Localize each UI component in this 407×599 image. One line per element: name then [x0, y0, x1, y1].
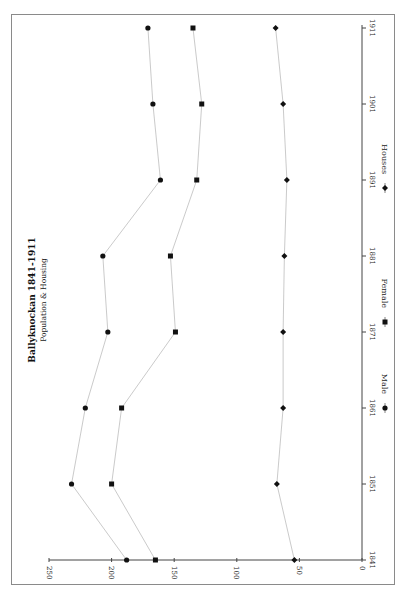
data-point-female — [153, 558, 158, 563]
value-tick-label: 200 — [107, 566, 115, 579]
chart-title: Ballyknockan 1841-1911 — [27, 237, 37, 362]
data-point-male — [105, 329, 110, 334]
value-tick-label: 150 — [170, 566, 178, 579]
series-markers — [69, 25, 297, 563]
data-point-female — [109, 482, 114, 487]
category-tick-label: 1901 — [368, 95, 376, 113]
data-point-houses — [280, 405, 286, 411]
value-tick-label: 250 — [45, 566, 53, 579]
legend-marker-houses-icon — [382, 185, 388, 191]
legend-label-male: Male — [380, 374, 389, 395]
data-point-houses — [280, 101, 286, 107]
data-point-female — [190, 26, 195, 31]
data-point-female — [199, 102, 204, 107]
data-point-houses — [291, 557, 297, 563]
category-tick-label: 1891 — [368, 171, 376, 189]
data-point-houses — [280, 329, 286, 335]
legend-marker-male-icon — [382, 405, 387, 410]
category-tick-label: 1851 — [368, 475, 376, 493]
series-line-male — [72, 28, 161, 560]
category-tick-label: 1911 — [368, 19, 376, 37]
data-point-houses — [273, 25, 279, 31]
value-tick-label: 100 — [232, 566, 240, 579]
series-lines — [72, 28, 295, 560]
series-line-houses — [276, 28, 295, 560]
data-point-houses — [284, 177, 290, 183]
category-tick-label: 1871 — [368, 323, 376, 341]
data-point-female — [119, 406, 124, 411]
category-tick-label: 1861 — [368, 399, 376, 417]
axes: 0501001502002501841185118611871188118911… — [45, 19, 377, 579]
series-line-female — [112, 28, 202, 560]
data-point-female — [173, 330, 178, 335]
value-tick-label: 0 — [358, 566, 366, 570]
data-point-male — [83, 405, 88, 410]
data-point-male — [124, 557, 129, 562]
chart-title-group: Ballyknockan 1841-1911 Population & Hous… — [27, 237, 48, 362]
chart-subtitle: Population & Housing — [39, 258, 48, 342]
category-tick-label: 1841 — [368, 551, 376, 569]
data-point-houses — [281, 253, 287, 259]
data-point-female — [194, 178, 199, 183]
legend-marker-female-icon — [383, 320, 388, 325]
data-point-male — [69, 481, 74, 486]
data-point-female — [168, 254, 173, 259]
data-point-male — [158, 177, 163, 182]
data-point-houses — [274, 481, 280, 487]
data-point-male — [145, 25, 150, 30]
data-point-male — [100, 253, 105, 258]
category-tick-label: 1881 — [368, 247, 376, 265]
legend-label-female: Female — [380, 279, 389, 309]
data-point-male — [150, 101, 155, 106]
line-chart: Ballyknockan 1841-1911 Population & Hous… — [0, 0, 407, 599]
legend: MaleFemaleHouses — [380, 144, 389, 413]
legend-label-houses: Houses — [380, 144, 389, 174]
value-tick-label: 50 — [295, 566, 303, 575]
